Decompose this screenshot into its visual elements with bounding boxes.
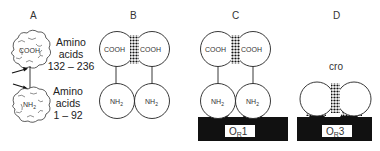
svg-text:1 – 92: 1 – 92 bbox=[53, 109, 82, 121]
cooh-label: COOH bbox=[104, 46, 125, 53]
cooh-label: COOH bbox=[140, 46, 161, 53]
nh2-domain-blob: NH2 bbox=[13, 87, 50, 122]
panel-d: D cro OR3 bbox=[297, 10, 372, 141]
cooh-description: Amino acids 132 – 236 bbox=[48, 36, 95, 72]
cro-label: cro bbox=[329, 61, 343, 72]
svg-text:132 – 236: 132 – 236 bbox=[48, 60, 95, 72]
nh2-description: Amino acids 1 – 92 bbox=[53, 85, 83, 121]
svg-text:Amino: Amino bbox=[56, 36, 86, 48]
cro-domain bbox=[300, 82, 334, 116]
figure: A COOH NH2 Amino acids bbox=[0, 0, 380, 151]
svg-text:acids: acids bbox=[59, 48, 84, 60]
dimer-interface bbox=[231, 35, 240, 64]
panel-b: B COOH COOH NH2 NH2 bbox=[100, 10, 170, 119]
dimer-interface bbox=[331, 83, 340, 113]
dimer-interface bbox=[130, 35, 139, 64]
panel-label-d: D bbox=[333, 10, 340, 21]
panel-c: C COOH COOH NH2 NH2 OR1 bbox=[198, 10, 288, 141]
panel-a: A COOH NH2 Amino acids bbox=[12, 10, 95, 122]
cooh-label: COOH bbox=[241, 46, 262, 53]
svg-text:Amino: Amino bbox=[53, 85, 83, 97]
panel-label-c: C bbox=[232, 10, 239, 21]
panel-label-a: A bbox=[30, 10, 37, 21]
svg-text:acids: acids bbox=[56, 97, 81, 109]
cooh-domain-blob: COOH bbox=[12, 30, 51, 68]
cooh-label: COOH bbox=[205, 46, 226, 53]
cooh-label: COOH bbox=[19, 47, 40, 54]
arrow-icon bbox=[12, 67, 28, 73]
cro-domain bbox=[337, 82, 371, 116]
panel-label-b: B bbox=[130, 10, 137, 21]
